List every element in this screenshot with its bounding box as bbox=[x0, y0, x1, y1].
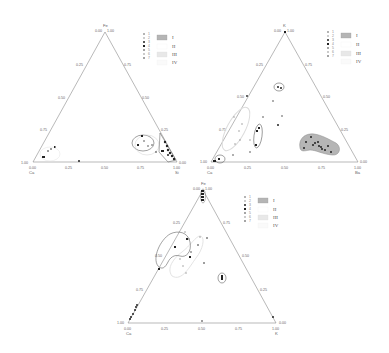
top-tick-left: 0.00 bbox=[193, 187, 200, 191]
top-tick-right: 1.00 bbox=[287, 29, 294, 33]
vertex-label-top: K bbox=[283, 23, 286, 28]
left-edge-tick: 1.00 bbox=[200, 160, 207, 164]
ternary-diagram-k-ca-ba: K Ca Ba 0.00 1.00 0.25 0.50 0.75 1.00 0.… bbox=[200, 23, 367, 175]
svg-text:IV: IV bbox=[273, 223, 279, 228]
bottom-tick: 1.00 bbox=[354, 166, 361, 170]
svg-text:II: II bbox=[172, 44, 176, 49]
left-edge-tick: 0.25 bbox=[76, 63, 83, 67]
bottom-tick: 0.75 bbox=[235, 327, 242, 331]
vertex-label-top: Fe bbox=[201, 181, 207, 186]
field-II bbox=[156, 232, 190, 268]
legend: 1 2 3 4 5 6 7 I II III IV bbox=[143, 32, 178, 65]
svg-text:7: 7 bbox=[332, 54, 334, 58]
right-edge-tick: 0.25 bbox=[161, 128, 168, 132]
data-points bbox=[42, 135, 175, 162]
right-edge-tick: 0.25 bbox=[260, 288, 267, 292]
right-edge-tick: 0.25 bbox=[341, 128, 348, 132]
bottom-tick: 0.75 bbox=[318, 166, 325, 170]
right-edge-tick: 0.75 bbox=[223, 221, 230, 225]
ternary-figure: Fe Ca Si 0.00 1.00 0.25 0.50 0.75 1.00 0… bbox=[0, 0, 389, 353]
field-I bbox=[300, 134, 340, 155]
bottom-tick: 0.50 bbox=[198, 327, 205, 331]
bottom-tick: 0.25 bbox=[65, 166, 72, 170]
bottom-tick: 0.25 bbox=[244, 166, 251, 170]
left-edge-tick: 1.00 bbox=[21, 161, 28, 165]
vertex-label-right: Ba bbox=[355, 170, 361, 175]
right-edge-tick: 0.00 bbox=[360, 160, 367, 164]
bottom-tick: 1.00 bbox=[173, 166, 180, 170]
bottom-tick: 0.75 bbox=[137, 166, 144, 170]
left-edge-tick: 0.25 bbox=[256, 63, 263, 67]
ternary-diagram-fe-ca-k: Fe Ca K 0.00 1.00 0.25 0.50 0.75 1.00 0.… bbox=[117, 181, 286, 336]
bottom-tick: 0.50 bbox=[101, 166, 108, 170]
triangle-frame bbox=[128, 190, 276, 323]
svg-text:7: 7 bbox=[148, 56, 150, 60]
left-edge-tick: 0.50 bbox=[58, 96, 65, 100]
left-edge-tick: 0.75 bbox=[136, 288, 143, 292]
svg-text:7: 7 bbox=[249, 219, 251, 223]
right-edge-tick: 0.75 bbox=[124, 63, 131, 67]
field-II bbox=[159, 133, 176, 162]
right-edge-tick: 0.00 bbox=[279, 321, 286, 325]
svg-text:IV: IV bbox=[172, 60, 178, 65]
right-edge-tick: 0.75 bbox=[305, 63, 312, 67]
left-edge-tick: 0.75 bbox=[40, 128, 47, 132]
svg-text:I: I bbox=[172, 35, 174, 40]
field-III bbox=[170, 236, 203, 277]
top-tick-right: 1.00 bbox=[205, 187, 212, 191]
bottom-tick: 0.00 bbox=[29, 166, 36, 170]
field-IV bbox=[40, 147, 60, 161]
svg-text:III: III bbox=[172, 52, 177, 57]
top-tick-right: 1.00 bbox=[107, 29, 114, 33]
right-edge-tick: 0.00 bbox=[179, 161, 186, 165]
vertex-label-top: Fe bbox=[103, 23, 109, 28]
vertex-label-left: Ca bbox=[207, 170, 213, 175]
left-edge-tick: 0.25 bbox=[173, 221, 180, 225]
ternary-diagram-fe-ca-si: Fe Ca Si 0.00 1.00 0.25 0.50 0.75 1.00 0… bbox=[21, 23, 186, 175]
bottom-tick: 1.00 bbox=[272, 327, 279, 331]
vertex-label-right: Si bbox=[175, 170, 179, 175]
legend: 1 2 3 4 5 6 7 I II III IV bbox=[327, 30, 362, 64]
data-points bbox=[129, 190, 274, 322]
right-edge-tick: 0.50 bbox=[142, 96, 149, 100]
svg-text:III: III bbox=[273, 215, 278, 220]
top-tick-left: 0.00 bbox=[274, 29, 281, 33]
bottom-tick: 0.00 bbox=[207, 166, 214, 170]
legend: 1 2 3 4 5 6 7 I II III IV bbox=[244, 195, 279, 228]
vertex-label-left: Ca bbox=[126, 331, 132, 336]
triangle-frame bbox=[33, 32, 177, 162]
vertex-label-left: Ca bbox=[29, 170, 35, 175]
svg-text:II: II bbox=[356, 42, 360, 47]
bottom-tick: 0.00 bbox=[124, 327, 131, 331]
svg-text:IV: IV bbox=[356, 59, 362, 64]
right-edge-tick: 0.50 bbox=[242, 254, 249, 258]
right-edge-tick: 0.50 bbox=[323, 95, 330, 99]
svg-text:I: I bbox=[356, 33, 358, 38]
left-edge-tick: 1.00 bbox=[117, 321, 124, 325]
vertex-label-right: K bbox=[275, 331, 278, 336]
bottom-tick: 0.25 bbox=[161, 327, 168, 331]
svg-text:I: I bbox=[273, 198, 275, 203]
left-edge-tick: 0.50 bbox=[237, 95, 244, 99]
triangle-frame bbox=[211, 32, 358, 162]
bottom-tick: 0.50 bbox=[281, 166, 288, 170]
svg-text:II: II bbox=[273, 207, 277, 212]
top-tick-left: 0.00 bbox=[95, 29, 102, 33]
svg-text:III: III bbox=[356, 51, 361, 56]
